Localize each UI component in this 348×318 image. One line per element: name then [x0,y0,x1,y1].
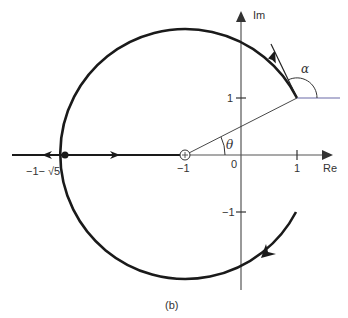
real-axis-label: Re [323,162,337,174]
alpha-label: α [301,62,309,76]
root-locus-diagram: Im Re −1 0 1 1 −1 −1− √5 θ α (b) [0,0,348,318]
real-axis-locus [12,151,185,159]
tick-label-re-neg1: −1 [177,162,190,174]
pole-marker [180,150,190,160]
breakaway-label: −1− √5 [26,165,60,177]
theta-angle-arc [221,137,225,155]
tick-label-re-0: 0 [231,158,237,170]
tick-label-im-1: 1 [227,92,233,104]
figure-caption: (b) [165,299,178,311]
tick-label-re-1: 1 [294,162,300,174]
theta-label: θ [226,138,234,152]
departure-tangent-line [271,44,297,98]
tick-label-im-neg1: −1 [222,206,235,218]
imag-axis [236,11,246,290]
real-axis [185,150,333,160]
breakaway-point [62,152,69,159]
real-axis-arrow-icon [322,150,333,160]
imag-axis-label: Im [253,9,265,21]
imag-axis-arrow-icon [236,11,246,22]
